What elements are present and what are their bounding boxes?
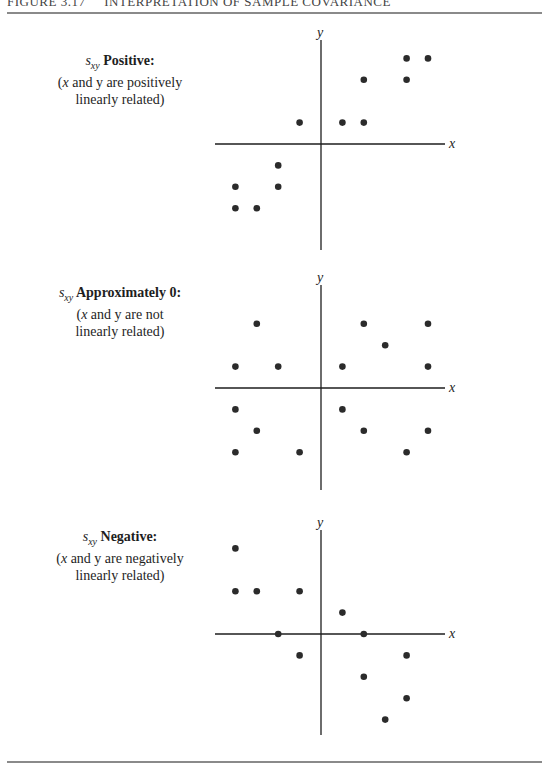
data-point <box>361 631 368 638</box>
scatter-plot-0: xy <box>215 25 456 250</box>
data-point <box>425 428 432 435</box>
data-point <box>232 363 239 370</box>
data-point <box>253 428 260 435</box>
data-point <box>296 119 303 126</box>
data-point <box>339 406 346 413</box>
y-axis-label: y <box>315 25 324 40</box>
y-axis-label: y <box>315 515 324 530</box>
data-point <box>403 695 410 702</box>
data-point <box>339 119 346 126</box>
data-point <box>296 449 303 456</box>
scatter-plot-2: xy <box>215 515 456 735</box>
data-point <box>253 588 260 595</box>
data-point <box>296 652 303 659</box>
data-point <box>275 184 282 191</box>
data-point <box>253 205 260 212</box>
x-axis-label: x <box>448 136 456 151</box>
data-point <box>361 119 368 126</box>
data-point <box>339 609 346 616</box>
data-point <box>232 545 239 552</box>
data-point <box>361 674 368 681</box>
data-point <box>382 342 389 349</box>
data-point <box>403 449 410 456</box>
data-point <box>232 588 239 595</box>
data-point <box>275 162 282 169</box>
x-axis-label: x <box>448 380 456 395</box>
data-point <box>253 321 260 328</box>
data-point <box>339 363 346 370</box>
scatter-plot-1: xy <box>215 270 456 490</box>
data-point <box>232 406 239 413</box>
data-point <box>296 588 303 595</box>
data-point <box>382 716 389 723</box>
data-point <box>361 77 368 84</box>
x-axis-label: x <box>448 626 456 641</box>
data-point <box>425 363 432 370</box>
data-point <box>232 184 239 191</box>
data-point <box>403 77 410 84</box>
data-point <box>275 631 282 638</box>
data-point <box>361 428 368 435</box>
data-point <box>232 449 239 456</box>
data-point <box>403 652 410 659</box>
data-point <box>361 321 368 328</box>
data-point <box>232 205 239 212</box>
scatter-plots: xyxyxy <box>0 0 548 765</box>
data-point <box>425 321 432 328</box>
data-point <box>425 55 432 62</box>
data-point <box>403 55 410 62</box>
y-axis-label: y <box>315 270 324 285</box>
data-point <box>275 363 282 370</box>
